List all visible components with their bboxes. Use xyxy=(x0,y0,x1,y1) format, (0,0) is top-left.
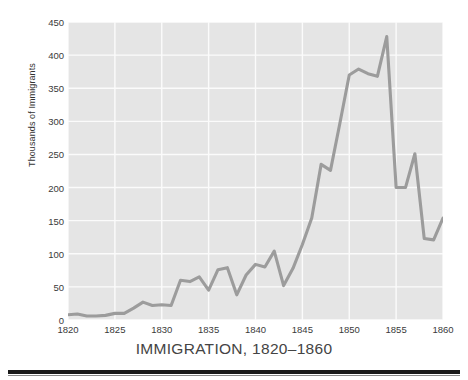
x-tick-label: 1825 xyxy=(104,324,125,335)
x-tick-label: 1830 xyxy=(151,324,172,335)
x-tick-label: 1860 xyxy=(432,324,453,335)
plot-area xyxy=(68,22,443,320)
y-axis-tick-labels: 050100150200250300350400450 xyxy=(34,0,64,380)
y-tick-label: 150 xyxy=(36,215,64,226)
y-tick-label: 250 xyxy=(36,149,64,160)
x-tick-label: 1850 xyxy=(339,324,360,335)
y-tick-label: 350 xyxy=(36,83,64,94)
x-tick-label: 1855 xyxy=(386,324,407,335)
line-chart-svg xyxy=(68,22,443,320)
y-tick-label: 400 xyxy=(36,50,64,61)
footer-rule-shadow xyxy=(8,375,460,376)
x-tick-label: 1835 xyxy=(198,324,219,335)
x-tick-label: 1820 xyxy=(57,324,78,335)
chart-figure: Thousands of Immigrants 0501001502002503… xyxy=(0,0,468,380)
y-tick-label: 300 xyxy=(36,116,64,127)
chart-title: IMMIGRATION, 1820–1860 xyxy=(0,340,468,358)
y-tick-label: 200 xyxy=(36,182,64,193)
x-tick-label: 1840 xyxy=(245,324,266,335)
x-tick-label: 1845 xyxy=(292,324,313,335)
y-tick-label: 100 xyxy=(36,248,64,259)
y-tick-label: 450 xyxy=(36,17,64,28)
x-axis-tick-labels: 182018251830183518401845185018551860 xyxy=(0,324,468,340)
y-tick-label: 50 xyxy=(36,281,64,292)
footer-rule xyxy=(8,370,460,374)
vertical-gridlines xyxy=(68,22,443,320)
